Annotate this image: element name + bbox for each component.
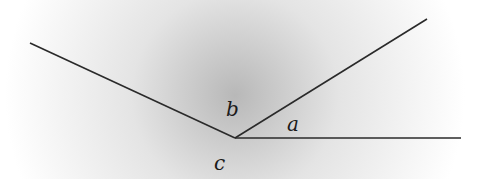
angle-label-c: c	[214, 151, 225, 175]
angle-diagram: b a c	[0, 0, 491, 179]
angle-label-b: b	[226, 97, 239, 121]
angle-label-a: a	[287, 112, 299, 136]
shaded-background	[0, 0, 491, 179]
